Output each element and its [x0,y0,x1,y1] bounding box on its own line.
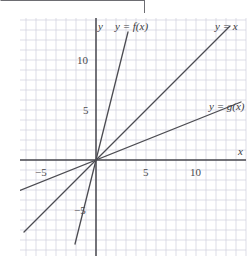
y-tick-label-10: 10 [77,55,88,66]
grid-lines [20,18,246,256]
x-tick-label-10: 10 [190,167,201,178]
x-identity-curve-label: y = x [215,21,238,32]
x-tick-label-5: 5 [143,167,149,178]
x-tick-label-neg5: −5 [35,167,47,178]
f-curve-label: y = f(x) [115,21,148,32]
series-lines [20,26,241,244]
y-tick-label-neg5: −5 [74,205,86,216]
g-curve-label: y = g(x) [209,101,245,112]
coordinate-plane [0,0,251,262]
x-axis-label: x [238,146,243,157]
y-tick-label-5: 5 [83,105,89,116]
y-axis-label: y [98,21,103,32]
figure-graph-of-three-linear-functions: −5 5 10 −5 5 10 y y = f(x) y = x y = g(x… [0,0,251,262]
